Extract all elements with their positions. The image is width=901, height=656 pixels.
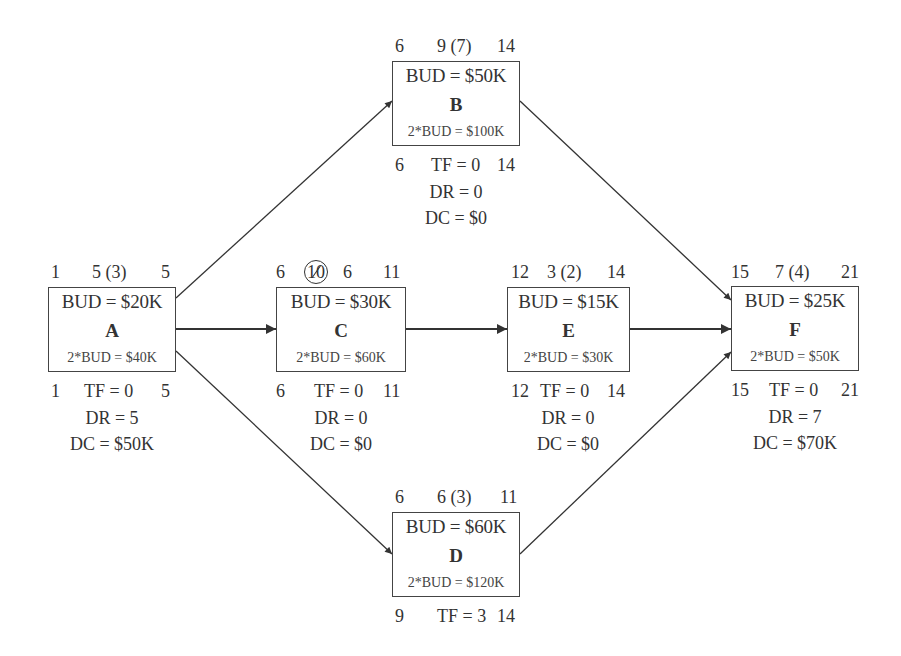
- network-diagram: 1 5 (3) 5 BUD = $20K A 2*BUD = $40K 1 TF…: [0, 0, 901, 656]
- early-start: 15: [731, 262, 749, 282]
- budget: BUD = $50K: [406, 65, 507, 87]
- total-float: TF = 0: [431, 155, 480, 175]
- crash-budget: 2*BUD = $100K: [408, 123, 505, 141]
- duration-cost: DC = $0: [425, 208, 487, 228]
- late-start: 9: [395, 606, 404, 626]
- late-finish: 14: [497, 155, 515, 175]
- activity-label: E: [562, 320, 575, 342]
- node-c-box[interactable]: BUD = $30K C 2*BUD = $60K: [276, 287, 406, 372]
- early-finish: 11: [500, 487, 517, 507]
- duration-cost: DC = $50K: [70, 434, 154, 454]
- duration-reduction: DR = 0: [429, 182, 482, 202]
- duration: 7 (4): [775, 262, 810, 282]
- duration-reduction: DR = 7: [768, 407, 821, 427]
- crash-budget: 2*BUD = $120K: [408, 574, 505, 592]
- node-e-box[interactable]: BUD = $15K E 2*BUD = $30K: [507, 287, 630, 372]
- activity-label: A: [105, 320, 119, 342]
- early-finish: 5: [161, 262, 170, 282]
- node-d-box[interactable]: BUD = $60K D 2*BUD = $120K: [392, 512, 520, 597]
- total-float: TF = 0: [769, 380, 818, 400]
- total-float: TF = 0: [314, 381, 363, 401]
- budget: BUD = $25K: [745, 290, 846, 312]
- activity-label: B: [450, 94, 463, 116]
- duration: 3 (2): [547, 262, 582, 282]
- struck-duration: 10: [304, 262, 328, 284]
- late-finish: 5: [161, 381, 170, 401]
- late-finish: 14: [607, 381, 625, 401]
- early-finish: 21: [841, 262, 859, 282]
- crash-budget: 2*BUD = $40K: [67, 349, 157, 367]
- activity-label: D: [449, 545, 463, 567]
- total-float: TF = 0: [540, 381, 589, 401]
- duration-reduction: DR = 0: [314, 408, 367, 428]
- node-b-box[interactable]: BUD = $50K B 2*BUD = $100K: [392, 61, 520, 146]
- early-start: 6: [395, 487, 404, 507]
- total-float: TF = 3: [437, 606, 486, 626]
- circled-struck-icon: 10: [304, 260, 328, 284]
- duration: 6 (3): [437, 487, 472, 507]
- early-finish: 14: [607, 262, 625, 282]
- early-finish: 14: [497, 36, 515, 56]
- budget: BUD = $30K: [291, 291, 392, 313]
- node-f-box[interactable]: BUD = $25K F 2*BUD = $50K: [731, 286, 859, 371]
- budget: BUD = $15K: [518, 291, 619, 313]
- duration-reduction: DR = 5: [85, 408, 138, 428]
- late-start: 12: [511, 381, 529, 401]
- early-start: 1: [51, 262, 60, 282]
- late-finish: 11: [383, 381, 400, 401]
- duration-cost: DC = $0: [310, 434, 372, 454]
- early-start: 6: [276, 262, 285, 282]
- crash-budget: 2*BUD = $60K: [296, 349, 386, 367]
- duration-cost: DC = $0: [537, 434, 599, 454]
- duration-reduction: DR = 0: [541, 408, 594, 428]
- budget: BUD = $20K: [62, 291, 163, 313]
- late-start: 6: [276, 381, 285, 401]
- activity-label: F: [789, 319, 801, 341]
- crash-budget: 2*BUD = $30K: [524, 349, 614, 367]
- duration-cost: DC = $70K: [753, 433, 837, 453]
- early-start: 12: [511, 262, 529, 282]
- total-float: TF = 0: [84, 381, 133, 401]
- duration: 6: [343, 262, 352, 282]
- late-start: 6: [395, 155, 404, 175]
- early-finish: 11: [383, 262, 400, 282]
- late-start: 15: [731, 380, 749, 400]
- budget: BUD = $60K: [406, 516, 507, 538]
- duration: 9 (7): [437, 36, 472, 56]
- crash-budget: 2*BUD = $50K: [750, 348, 840, 366]
- duration: 5 (3): [92, 262, 127, 282]
- early-start: 6: [395, 36, 404, 56]
- late-start: 1: [51, 381, 60, 401]
- late-finish: 14: [497, 606, 515, 626]
- activity-label: C: [334, 320, 348, 342]
- node-a-box[interactable]: BUD = $20K A 2*BUD = $40K: [48, 287, 176, 372]
- late-finish: 21: [841, 380, 859, 400]
